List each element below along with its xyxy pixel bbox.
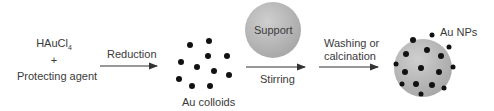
reactant-hauci4: HAuCl4: [18, 37, 90, 51]
colloids-label: Au colloids: [182, 96, 235, 108]
support-label: Support: [254, 24, 293, 36]
au-nps-label: Au NPs: [440, 26, 477, 38]
au-colloid-dots: [176, 38, 232, 89]
synthesis-diagram: HAuCl4 + Protecting agent Reduction Au c…: [0, 0, 494, 111]
plus-sign: +: [18, 54, 90, 66]
step-calcination-label: calcination: [324, 50, 376, 62]
reactant-protecting-agent: Protecting agent: [17, 70, 97, 82]
step-washing-label: Washing or: [324, 37, 379, 49]
step-reduction-label: Reduction: [107, 48, 157, 60]
step-stirring-label: Stirring: [260, 73, 295, 85]
